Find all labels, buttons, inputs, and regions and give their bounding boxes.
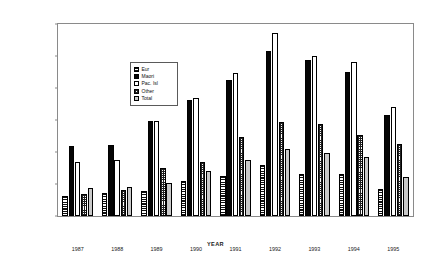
bar [193,98,198,216]
bar-group [181,24,212,216]
legend-item: Maori [134,73,174,80]
bar [260,165,265,216]
y-tick-mark [55,120,58,121]
bar [187,100,192,216]
x-tick-label: 1993 [294,246,334,252]
bar [285,149,290,216]
bar [345,72,350,216]
legend-label: Pac. Isl [142,81,158,86]
bar [391,107,396,216]
y-tick-mark [55,88,58,89]
bar [305,60,310,216]
bar [312,56,317,216]
bar [266,51,271,216]
y-tick-mark [55,184,58,185]
bar [69,146,74,216]
bar [88,188,93,216]
bar-chart: PERCENTAGE YEAR 05.010.015.020.025.030.0… [0,0,431,257]
bar [357,135,362,216]
bar [299,174,304,216]
bar [378,189,383,216]
bar [160,168,165,216]
bar [279,122,284,216]
bar [75,162,80,216]
x-tick-label: 1995 [373,246,413,252]
bar [351,62,356,216]
plot-area: 05.010.015.020.025.030.0 198719881989199… [57,23,414,217]
bar [364,157,369,216]
legend-item: Pac. Isl [134,80,174,87]
legend-swatch-icon [134,81,139,86]
bar [339,174,344,216]
bar [220,176,225,216]
legend-label: Eur [142,67,150,72]
bar [127,187,132,216]
bar-group [220,24,251,216]
bar [206,171,211,216]
bar [397,144,402,216]
x-tick-label: 1989 [137,246,177,252]
x-tick-label: 1988 [97,246,137,252]
bar [121,190,126,216]
legend-label: Total [142,96,153,101]
bar [148,121,153,216]
bar [384,115,389,216]
x-tick-label: 1987 [58,246,98,252]
bar [403,177,408,216]
y-tick-mark [55,24,58,25]
bar [233,73,238,216]
bar [166,183,171,216]
y-tick-mark [55,152,58,153]
bar-group [102,24,133,216]
bar [108,145,113,216]
legend-swatch-icon [134,96,139,101]
bar [324,153,329,216]
legend-item: Eur [134,66,174,73]
bar [239,137,244,216]
bar-group [299,24,330,216]
legend-swatch-icon [134,74,139,79]
bar [114,160,119,216]
x-tick-label: 1992 [255,246,295,252]
legend-item: Total [134,95,174,102]
bar [272,33,277,216]
bar [81,194,86,216]
bar [141,191,146,216]
bar [318,124,323,216]
legend-swatch-icon [134,67,139,72]
bar [62,196,67,216]
legend-item: Other [134,88,174,95]
y-tick-mark [55,56,58,57]
bar-group [339,24,370,216]
bar [245,160,250,216]
bar-group [62,24,93,216]
legend-label: Other [142,89,155,94]
bar-group [378,24,409,216]
legend-label: Maori [142,74,155,79]
legend-swatch-icon [134,89,139,94]
bar-group [260,24,291,216]
bar [200,162,205,216]
x-tick-label: 1990 [176,246,216,252]
x-tick-label: 1994 [334,246,374,252]
y-tick-mark [55,216,58,217]
x-tick-label: 1991 [216,246,256,252]
bar [154,121,159,216]
bar-group [141,24,172,216]
legend: EurMaoriPac. IslOtherTotal [130,62,178,106]
bar [102,193,107,216]
bar [181,181,186,216]
bar [226,80,231,216]
